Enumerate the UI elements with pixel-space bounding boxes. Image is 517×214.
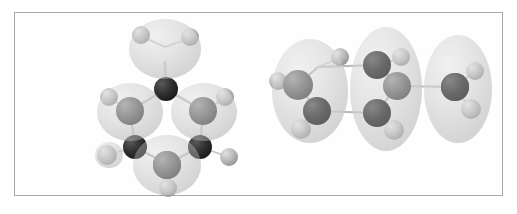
left-molecule-svg xyxy=(75,13,265,197)
hydrogen-atom xyxy=(220,148,238,166)
orbital-veil-left-column xyxy=(272,39,348,143)
orbital-isosurface-front-veils xyxy=(272,27,492,151)
right-panel-benzene-orbital-edge-view xyxy=(265,13,495,195)
orbital-veil-right xyxy=(171,83,237,141)
orbital-veil-top xyxy=(129,19,201,79)
figure-frame xyxy=(14,12,503,196)
right-molecule-svg xyxy=(265,13,495,197)
orbital-veil-center-column xyxy=(350,27,422,151)
orbital-veil-hydrogen-lower-left xyxy=(95,142,123,168)
orbital-isosurface-front-veils xyxy=(95,19,237,195)
figure-root xyxy=(0,0,517,214)
orbital-veil-left xyxy=(97,83,163,141)
orbital-veil-right-column xyxy=(424,35,492,143)
orbital-veil-bottom xyxy=(133,135,201,195)
left-panel-benzene-orbital-top-view xyxy=(75,13,265,195)
